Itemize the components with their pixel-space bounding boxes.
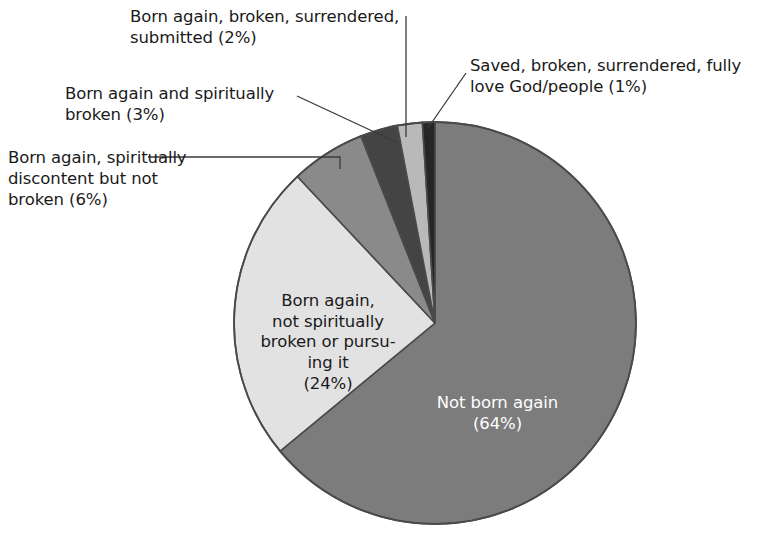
slice-label-text-24pct: Born again, not spiritually broken or pu…: [260, 291, 395, 372]
slice-label-text-64pct: Not born again: [437, 393, 558, 412]
slice-label-not-born-again: Not born again (64%): [405, 372, 590, 455]
slice-percent-text-24pct: (24%): [243, 374, 413, 395]
slice-label-born-again-not-broken: Born again, not spiritually broken or pu…: [243, 270, 413, 415]
callout-label-saved-fully-love: Saved, broken, surrendered, fully love G…: [470, 55, 741, 97]
slice-percent-text-64pct: (64%): [405, 414, 590, 435]
leader-line-3pct: [297, 96, 398, 143]
callout-label-spiritually-discontent: Born again, spiritually discontent but n…: [8, 147, 187, 210]
leader-line-1pct: [428, 73, 466, 128]
pie-chart-figure: Born again, broken, surrendered, submitt…: [0, 0, 769, 539]
callout-label-broken-surrendered-submitted: Born again, broken, surrendered, submitt…: [130, 6, 399, 48]
callout-label-born-again-spiritually-broken: Born again and spiritually broken (3%): [65, 83, 274, 125]
